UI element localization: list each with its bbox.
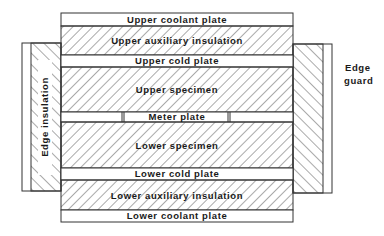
label-lower-specimen: Lower specimen (136, 140, 219, 151)
diagram-canvas: Edge insulation Edge guard Upper coolant… (0, 0, 384, 236)
label-upper-coolant-plate: Upper coolant plate (127, 14, 227, 25)
edge-guard-label-line2: guard (344, 75, 373, 86)
label-lower-cold-plate: Lower cold plate (135, 168, 220, 179)
label-lower-coolant-plate: Lower coolant plate (127, 210, 228, 221)
edge-guard: Edge guard (293, 44, 373, 193)
label-meter-plate: Meter plate (149, 111, 206, 122)
label-upper-specimen: Upper specimen (136, 84, 218, 95)
edge-insulation-label: Edge insulation (39, 77, 50, 157)
label-lower-auxiliary-insulation: Lower auxiliary insulation (111, 190, 243, 201)
edge-insulation: Edge insulation (22, 43, 61, 191)
edge-guard-label-line1: Edge (345, 62, 371, 73)
label-upper-auxiliary-insulation: Upper auxiliary insulation (111, 35, 243, 46)
label-upper-cold-plate: Upper cold plate (135, 55, 219, 66)
